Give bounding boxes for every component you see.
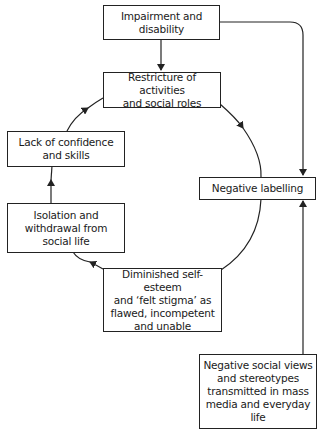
- node-impairment-and-disability: Impairment and disability: [103, 5, 220, 40]
- arc-labelling-to-diminished: [221, 199, 261, 270]
- node-restricture-of-activities: Restricture of activities and social rol…: [103, 72, 221, 108]
- node-diminished-self-esteem: Diminished self-esteem and ‘felt stigma’…: [103, 268, 222, 332]
- arc-isolation-to-lack-cont: [51, 166, 52, 180]
- arc-diminished-to-isolation: [90, 262, 103, 269]
- arc-restricture-to-labelling: [220, 104, 243, 128]
- node-lack-of-confidence: Lack of confidence and skills: [7, 131, 125, 167]
- node-negative-social-views: Negative social views and stereotypes tr…: [199, 354, 317, 429]
- node-isolation-and-withdrawal: Isolation and withdrawal from social lif…: [7, 203, 125, 253]
- arc-lack-to-restricture-cont: [88, 98, 103, 108]
- arrow-impairment-to-labelling: [220, 22, 303, 175]
- node-negative-labelling: Negative labelling: [199, 177, 316, 200]
- arc-lack-to-restricture: [67, 108, 88, 131]
- arc-restricture-to-labelling-cont: [243, 128, 261, 177]
- arc-isolation-curve: [73, 252, 90, 262]
